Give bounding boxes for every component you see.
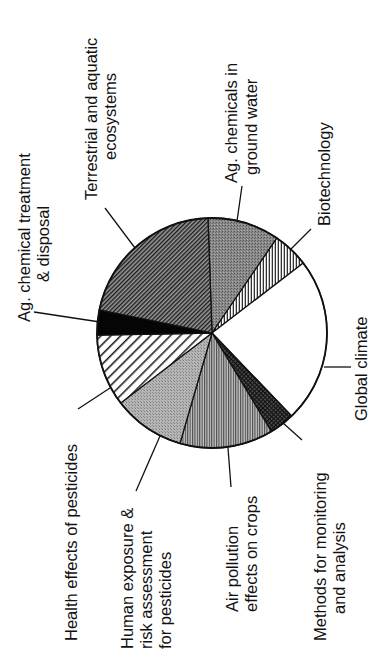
label-health-effects: Health effects of pesticides xyxy=(62,444,80,641)
label-ground-water: Ag. chemicals inground water xyxy=(222,63,260,183)
label-global-climate: Global climate xyxy=(352,316,370,421)
label-ag-treatment: Ag. chemical treatment& disposal xyxy=(15,153,52,322)
label-biotechnology: Biotechnology xyxy=(315,122,333,226)
label-methods: Methods for monitoringand analysis xyxy=(311,472,348,641)
label-human-exposure: Human exposure &risk assessmentfor pesti… xyxy=(118,508,174,649)
label-terrestrial: Terrestrial and aquaticecosystems xyxy=(82,38,119,200)
pie-chart: Ag. chemicals inground water Biotechnolo… xyxy=(0,0,392,671)
label-air-pollution: Air pollutioneffects on crops xyxy=(223,496,260,612)
pie-slices xyxy=(97,218,327,448)
